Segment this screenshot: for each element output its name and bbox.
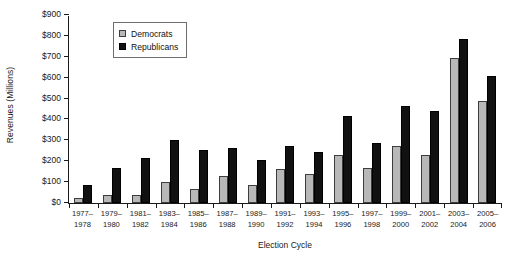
x-axis-tick-label-line: 1986: [184, 219, 213, 230]
y-axis-tick-label: $300: [42, 134, 61, 144]
bar-republicans[interactable]: [285, 146, 294, 203]
x-axis-tick-label: 1993–1994: [300, 208, 329, 230]
x-axis-tick-label-line: 2005–: [473, 208, 502, 219]
bar-group: [415, 16, 444, 203]
bar-republicans[interactable]: [314, 152, 323, 203]
x-axis-tick-label-line: 1995–: [328, 208, 357, 219]
bar-democrats[interactable]: [392, 146, 401, 203]
bar-republicans[interactable]: [401, 106, 410, 203]
legend-item[interactable]: Democrats: [119, 27, 178, 40]
x-axis-tick-label-line: 2006: [473, 219, 502, 230]
bar-republicans[interactable]: [199, 150, 208, 203]
x-axis-tick-label: 1987–1988: [213, 208, 242, 230]
y-axis-title-text: Revenues (Millions): [5, 67, 15, 144]
bar-republicans[interactable]: [141, 158, 150, 203]
y-axis-tick-label: $600: [42, 72, 61, 82]
bar-democrats[interactable]: [132, 195, 141, 203]
legend-label: Democrats: [131, 29, 173, 39]
bar-democrats[interactable]: [334, 155, 343, 203]
bar-republicans[interactable]: [430, 111, 439, 203]
x-axis-tick-label-line: 1998: [357, 219, 386, 230]
x-axis-tick-label: 1979–1980: [97, 208, 126, 230]
bar-democrats[interactable]: [190, 189, 199, 203]
x-axis-tick-label-line: 1979–: [97, 208, 126, 219]
bar-group: [184, 16, 213, 203]
y-axis-tick-label: $700: [42, 51, 61, 61]
x-axis-tick-label-line: 1999–: [386, 208, 415, 219]
bar-democrats[interactable]: [161, 182, 170, 203]
bar-republicans[interactable]: [170, 140, 179, 203]
y-axis-tick-label: $100: [42, 176, 61, 186]
y-axis-tick-label: $800: [42, 30, 61, 40]
x-axis-title: Election Cycle: [68, 240, 502, 250]
legend-swatch-dem: [119, 30, 126, 37]
bar-republicans[interactable]: [257, 160, 266, 203]
bar-group: [300, 16, 329, 203]
bar-republicans[interactable]: [228, 148, 237, 203]
bar-republicans[interactable]: [112, 168, 121, 203]
chart-legend: DemocratsRepublicans: [113, 22, 187, 58]
y-axis-tick-label: $200: [42, 155, 61, 165]
y-axis-tick: $900: [64, 14, 69, 15]
x-axis-tick-label-line: 1996: [328, 219, 357, 230]
x-axis-tick-label-line: 1990: [242, 219, 271, 230]
bar-group: [444, 16, 473, 203]
x-axis-tick-label: 1977–1978: [68, 208, 97, 230]
x-axis-tick-label: 1983–1984: [155, 208, 184, 230]
x-axis-tick-label: 1995–1996: [328, 208, 357, 230]
x-axis-tick-label-line: 1994: [300, 219, 329, 230]
x-axis-tick-label-line: 2003–: [444, 208, 473, 219]
bar-chart-figure: Revenues (Millions) $0$100$200$300$400$5…: [0, 0, 509, 264]
bar-republicans[interactable]: [343, 116, 352, 203]
x-axis-tick-label-line: 1989–: [242, 208, 271, 219]
x-axis-tick-label: 1997–1998: [357, 208, 386, 230]
bar-democrats[interactable]: [363, 168, 372, 203]
y-axis-title: Revenues (Millions): [2, 0, 18, 210]
bar-group: [386, 16, 415, 203]
x-axis-tick-label-line: 1983–: [155, 208, 184, 219]
legend-swatch-rep: [119, 43, 126, 50]
x-axis-tick-label-line: 1984: [155, 219, 184, 230]
y-axis-tick-label: $900: [42, 9, 61, 19]
x-axis-tick-label-line: 1997–: [357, 208, 386, 219]
x-axis-tick-label: 1985–1986: [184, 208, 213, 230]
x-axis-tick-label-line: 1982: [126, 219, 155, 230]
y-axis-tick-label: $0: [52, 197, 61, 207]
y-axis-tick-label: $400: [42, 113, 61, 123]
bar-democrats[interactable]: [248, 185, 257, 203]
x-axis-tick-label-line: 1993–: [300, 208, 329, 219]
bar-republicans[interactable]: [459, 39, 468, 203]
bar-democrats[interactable]: [421, 155, 430, 203]
x-axis-tick-label-line: 2001–: [415, 208, 444, 219]
x-axis-tick-labels: 1977–19781979–19801981–19821983–19841985…: [68, 208, 502, 230]
bar-democrats[interactable]: [103, 195, 112, 203]
bar-democrats[interactable]: [219, 176, 228, 203]
bar-group: [329, 16, 358, 203]
bar-democrats[interactable]: [276, 169, 285, 203]
x-axis-tick-label-line: 2004: [444, 219, 473, 230]
bar-democrats[interactable]: [450, 58, 459, 203]
x-axis-tick-label-line: 2000: [386, 219, 415, 230]
x-axis-tick-label: 2003–2004: [444, 208, 473, 230]
bar-democrats[interactable]: [74, 198, 83, 203]
x-axis-tick-label-line: 1980: [97, 219, 126, 230]
bar-group: [242, 16, 271, 203]
legend-label: Republicans: [131, 42, 178, 52]
y-axis-tick-label: $500: [42, 93, 61, 103]
x-axis-tick-label: 2005–2006: [473, 208, 502, 230]
legend-item[interactable]: Republicans: [119, 40, 178, 53]
x-axis-tick-label: 1989–1990: [242, 208, 271, 230]
bar-democrats[interactable]: [478, 101, 487, 203]
x-axis-tick-label-line: 1991–: [271, 208, 300, 219]
bar-group: [69, 16, 98, 203]
bar-republicans[interactable]: [487, 76, 496, 203]
x-axis-tick-label-line: 2002: [415, 219, 444, 230]
x-axis-tick-label-line: 1981–: [126, 208, 155, 219]
bar-group: [271, 16, 300, 203]
x-axis-tick-label: 1981–1982: [126, 208, 155, 230]
bar-democrats[interactable]: [305, 174, 314, 203]
x-axis-tick-label-line: 1987–: [213, 208, 242, 219]
bar-group: [358, 16, 387, 203]
bar-republicans[interactable]: [83, 185, 92, 203]
bar-republicans[interactable]: [372, 143, 381, 203]
